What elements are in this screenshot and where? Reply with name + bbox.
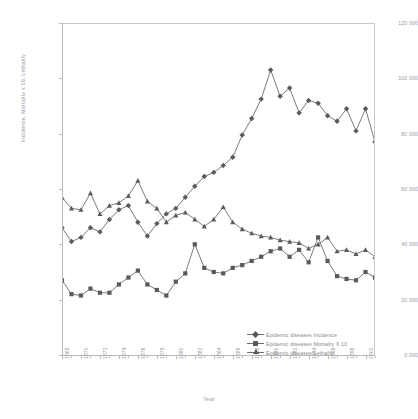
data-point — [316, 235, 320, 239]
series-canvas — [62, 23, 375, 355]
x-axis-tick-mark — [100, 356, 101, 359]
legend-item[interactable]: Epidemic diseases Lethality — [247, 348, 375, 357]
x-axis-tick-mark — [81, 356, 82, 359]
x-axis-tick-mark — [233, 356, 234, 359]
data-point — [174, 280, 178, 284]
x-axis-tick-mark — [119, 356, 120, 359]
data-point — [126, 193, 131, 198]
data-point — [249, 116, 254, 121]
x-axis-minor-tick-mark — [90, 356, 91, 358]
data-point — [135, 178, 140, 183]
data-point — [278, 246, 282, 250]
series-square — [62, 235, 375, 297]
legend-marker-diamond-icon — [247, 330, 264, 339]
x-axis-minor-tick-mark — [147, 356, 148, 358]
x-axis-tick-label: 1886 — [235, 347, 241, 359]
data-point — [269, 249, 273, 253]
y-axis-tick-label: 20 000 — [364, 297, 418, 303]
data-point — [126, 275, 130, 279]
legend-label: Epidemic diseases Incidence — [264, 332, 337, 338]
x-axis-minor-tick-mark — [128, 356, 129, 358]
data-point — [354, 278, 358, 282]
data-point — [136, 269, 140, 273]
legend-label: Epidemic diseases Lethality — [264, 350, 334, 356]
y-axis-tick-label: 40 000 — [364, 241, 418, 247]
data-point — [354, 251, 359, 256]
data-point — [88, 287, 92, 291]
legend-item[interactable]: Epidemic diseases Mortality X 10 — [247, 339, 375, 348]
x-axis-tick-mark — [214, 356, 215, 359]
x-axis-tick-mark — [138, 356, 139, 359]
data-point — [325, 259, 329, 263]
data-point — [363, 270, 367, 274]
x-axis-tick-mark — [195, 356, 196, 359]
x-axis-tick-label: 1882 — [197, 347, 203, 359]
data-point — [211, 170, 216, 175]
data-point — [353, 128, 358, 133]
data-point — [258, 96, 263, 101]
data-point — [193, 242, 197, 246]
y-axis-tick-label: 100 000 — [364, 75, 418, 81]
series-line — [62, 70, 375, 242]
y-axis-tick-mark — [59, 134, 63, 135]
x-axis-tick-label: 1878 — [159, 347, 165, 359]
plot-frame-top — [62, 23, 375, 24]
y-axis-tick-mark — [59, 244, 63, 245]
data-point — [344, 247, 349, 252]
data-point — [164, 293, 168, 297]
data-point — [288, 255, 292, 259]
data-point — [231, 266, 235, 270]
data-point — [145, 199, 150, 204]
data-point — [154, 206, 159, 211]
data-point — [183, 271, 187, 275]
data-point — [363, 247, 368, 252]
data-point — [240, 132, 245, 137]
data-point — [145, 282, 149, 286]
legend-marker-glyph — [252, 330, 259, 337]
x-axis-minor-tick-mark — [242, 356, 243, 358]
x-axis-tick-mark — [157, 356, 158, 359]
data-point — [221, 271, 225, 275]
legend-marker-glyph — [253, 349, 259, 354]
data-point — [126, 203, 131, 208]
x-axis-tick-label: 1870 — [83, 347, 89, 359]
x-axis-tick-label: 1884 — [216, 347, 222, 359]
data-point — [307, 260, 311, 264]
x-axis-tick-mark — [176, 356, 177, 359]
data-point — [363, 106, 368, 111]
data-point — [268, 67, 273, 72]
y-axis-tick-label: 80 000 — [364, 131, 418, 137]
legend-item[interactable]: Epidemic diseases Incidence — [247, 330, 375, 339]
data-point — [250, 259, 254, 263]
data-point — [79, 293, 83, 297]
x-axis-tick-label: 1872 — [102, 347, 108, 359]
series-line — [62, 237, 375, 295]
legend-marker-square-icon — [247, 339, 264, 348]
x-axis-minor-tick-mark — [185, 356, 186, 358]
data-point — [69, 292, 73, 296]
data-point — [306, 246, 311, 251]
data-point — [107, 291, 111, 295]
y-axis-tick-mark — [59, 300, 63, 301]
data-point — [183, 210, 188, 215]
data-point — [116, 200, 121, 205]
data-point — [335, 274, 339, 278]
legend-marker-triangle-icon — [247, 348, 264, 357]
x-axis-tick-label: 1876 — [140, 347, 146, 359]
data-point — [344, 277, 348, 281]
data-point — [117, 282, 121, 286]
data-point — [259, 255, 263, 259]
chart-figure: 0,00020 00040 00060 00080 000100 000120 … — [0, 0, 418, 419]
x-axis-minor-tick-mark — [223, 356, 224, 358]
y-axis-tick-mark — [59, 78, 63, 79]
x-axis-tick-mark — [62, 356, 63, 359]
data-point — [98, 291, 102, 295]
x-axis-minor-tick-mark — [204, 356, 205, 358]
plot-area — [62, 23, 375, 355]
x-axis-minor-tick-mark — [109, 356, 110, 358]
legend-marker-glyph — [253, 341, 258, 346]
data-point — [221, 204, 226, 209]
x-axis-tick-label: 1868 — [64, 347, 70, 359]
y-axis-title: Incidence, Mortality x 10, Lethality — [20, 13, 26, 183]
data-point — [192, 217, 197, 222]
